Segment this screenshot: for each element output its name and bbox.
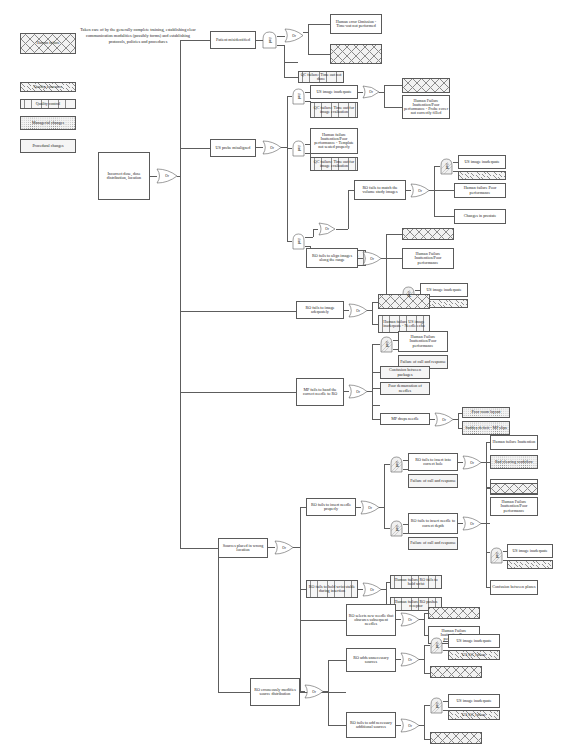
gate-or-root: Or xyxy=(156,168,178,184)
gate-or-align-range: Or xyxy=(362,251,382,266)
node-sources-placed-wrong-label: Sources placed in wrong location xyxy=(220,544,266,553)
node-us-image-inadequate-5-label: US image inadequate xyxy=(456,639,491,643)
node-us-image-inadequate-1-label: US image inadequate xyxy=(316,90,351,94)
node-changes-in-prostate-label: Changes in prostate xyxy=(464,214,496,218)
gate-or-prostate-top: Or xyxy=(318,222,336,236)
node-mp-fails-hand-needle-label: MP fails to hand the correct needle to R… xyxy=(298,388,342,397)
node-confusion-between-planes-label: Confusion between planes xyxy=(492,585,535,589)
node-us-probe-misaligned-label: US probe misaligned xyxy=(216,146,251,150)
node-hf-inattention-hand: Human Failure Inattention/Poor performan… xyxy=(398,331,448,352)
gate-label-or-patient-inner: Or xyxy=(292,34,296,38)
node-qc-timeout-not-done: QC failure: Time out not done xyxy=(298,71,344,83)
gate-label-or-insert-needle: Or xyxy=(368,506,372,510)
gate-and-hand-needle: And xyxy=(380,336,393,353)
gate-or-hold-wrist: Or xyxy=(362,582,382,597)
node-mp-drops-needle-label: MP drops needle xyxy=(391,417,419,421)
node-sudden-deficit-mp: Sudden deficit - MP slips xyxy=(462,421,510,435)
legend-label-managerial-changes: Managerial changes xyxy=(32,121,64,125)
gate-and-correct-hole: And xyxy=(390,456,403,473)
node-hf-inattention-hole: Human failure Inattention xyxy=(490,435,538,450)
node-qa-depth-2 xyxy=(507,560,553,569)
gate-label-or-sources-wrong: Or xyxy=(282,546,286,550)
node-hf-inattention-hand-label: Human Failure Inattention/Poor performan… xyxy=(400,335,446,348)
gate-and-depth-usimg: And xyxy=(490,547,503,564)
gate-or-us-probe: Or xyxy=(262,140,282,155)
node-qa-necessary: US QC failure xyxy=(448,710,500,720)
gate-or-us-image-right: Or xyxy=(362,85,380,99)
node-us-image-inadequate-4-label: US image inadequate xyxy=(512,549,547,553)
node-ro-adds-unnecessary-label: RO adds unnecessary sources xyxy=(348,656,394,665)
gate-label-or-necessary: Or xyxy=(408,724,412,728)
legend-item-procedural-changes: Procedural changes xyxy=(20,139,76,153)
gate-label-and-prostate: And xyxy=(297,238,301,244)
gate-label-or-us-probe: Or xyxy=(270,146,274,150)
node-hf-inattention-depth: Human Failure Inattention/Poor performan… xyxy=(490,497,538,516)
node-sudden-deficit-mp-label: Sudden deficit - MP slips xyxy=(465,426,507,430)
legend-label-quality-assurance: Quality assurance xyxy=(34,85,63,89)
node-failure-call-response-3-label: Failure of call and response xyxy=(410,541,456,545)
legend-item-human-failure: Human failure xyxy=(20,33,76,54)
node-us-image-inadequate-3-label: US image inadequate xyxy=(426,288,461,292)
node-failure-call-response-2: Failure of call and response xyxy=(408,474,458,488)
node-failure-call-response-2-label: Failure of call and response xyxy=(410,479,456,483)
node-bad-clearing-workflow-label: Bad clearing workflow xyxy=(495,460,533,464)
node-hf-template-seated: Human failure Inattention/Poor performan… xyxy=(310,128,358,154)
gate-and-unnecessary-usimg: And xyxy=(430,637,443,654)
node-ro-fails-add-necessary: RO fails to add necessary additional sou… xyxy=(346,712,396,738)
node-changes-in-prostate: Changes in prostate xyxy=(454,209,506,224)
node-qa-depth xyxy=(490,483,538,494)
gate-or-modifies: Or xyxy=(304,684,324,699)
gate-or-correct-depth: Or xyxy=(462,516,482,531)
node-failure-call-response-3: Failure of call and response xyxy=(408,537,458,550)
gate-label-and-unnecessary-usimg: And xyxy=(435,642,439,648)
gate-label-or-align-range: Or xyxy=(370,257,374,261)
gate-label-or-hold-wrist: Or xyxy=(370,588,374,592)
gate-or-sources-wrong: Or xyxy=(274,540,294,555)
node-hf-poor-performance-volume-label: Human failure Poor performance xyxy=(456,186,504,195)
node-proc-unnecessary xyxy=(430,666,482,678)
node-us-image-inadequate-6: US image inadequate xyxy=(448,694,500,708)
node-ro-fails-match-volume-label: RO fails to match the volume study image… xyxy=(356,186,404,195)
legend-label-quality-control: Quality control xyxy=(36,102,60,106)
node-ro-fails-correct-depth-label: RO fails to insert needle to correct dep… xyxy=(410,519,456,528)
gate-label-and-correct-depth: And xyxy=(395,525,399,531)
node-qa-volume xyxy=(458,171,506,180)
gate-or-patient-inner: Or xyxy=(284,28,304,43)
node-hf-align-range-label: Human Failure Inattention/Poor performan… xyxy=(404,252,452,265)
node-qa-unnecessary-label: US QC failure xyxy=(462,653,486,657)
node-us-image-inadequate-6-label: US image inadequate xyxy=(456,699,491,703)
node-qc-timeout-not-done-label: QC failure: Time out not done xyxy=(300,73,342,82)
gate-and-us-image: And xyxy=(292,88,305,105)
node-qa-probe xyxy=(402,78,450,93)
node-human-error-timeout: Human error Omission - Time-out not perf… xyxy=(330,14,382,34)
node-poor-demarcation-needles-label: Poor demarcation of needles xyxy=(382,384,428,393)
gate-label-and-template: And xyxy=(297,145,301,151)
node-confusion-between-planes: Confusion between planes xyxy=(490,580,538,595)
node-ro-fails-correct-hole: RO fails to insert into correct hole xyxy=(408,453,458,471)
node-qc-timeout-image-eval: QC failure: Time out for image evaluatio… xyxy=(310,102,358,118)
gate-or-unnecessary: Or xyxy=(400,652,420,667)
node-hf-probe-cover: Human Failure Inattention/Poor performan… xyxy=(402,95,450,119)
node-hf-inattention-hole-label: Human failure Inattention xyxy=(493,440,536,444)
node-hf-inattention-depth-label: Human Failure Inattention/Poor performan… xyxy=(492,500,536,513)
node-qa-timeout xyxy=(330,44,382,64)
gate-label-or-image-adequately: Or xyxy=(356,309,360,313)
gate-and-correct-depth: And xyxy=(390,520,403,537)
node-qa-necessary-label: US QC failure xyxy=(462,713,486,717)
gate-label-or-prostate-top: Or xyxy=(325,227,329,231)
node-hf-probe-cover-label: Human Failure Inattention/Poor performan… xyxy=(404,99,448,116)
node-sources-placed-wrong: Sources placed in wrong location xyxy=(218,538,268,558)
node-qa-range xyxy=(402,228,454,240)
gate-or-correct-hole: Or xyxy=(462,455,482,470)
node-confusion-packages: Confusion between packages xyxy=(380,366,430,379)
node-ro-fails-align-range: RO fails to align images along the range xyxy=(306,248,358,268)
gate-or-image-adequately: Or xyxy=(348,303,368,318)
node-poor-room-layout: Poor room layout xyxy=(462,407,510,418)
node-ro-fails-correct-depth: RO fails to insert needle to correct dep… xyxy=(408,513,458,534)
node-us-image-inadequate-2: US image inadequate xyxy=(458,155,506,169)
gate-label-or-correct-depth: Or xyxy=(470,522,474,526)
gate-or-insert-needle: Or xyxy=(360,500,380,515)
node-ro-fails-align-range-label: RO fails to align images along the range xyxy=(308,254,356,263)
gate-label-and-correct-hole: And xyxy=(395,461,399,467)
node-mp-fails-hand-needle: MP fails to hand the correct needle to R… xyxy=(296,378,344,406)
